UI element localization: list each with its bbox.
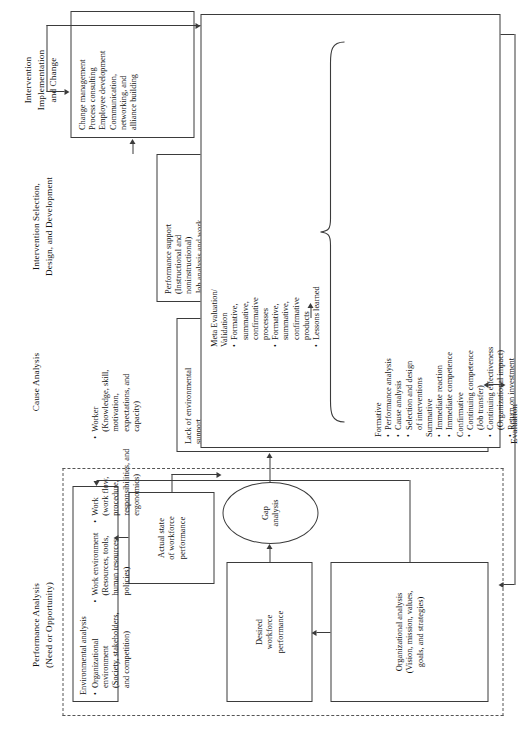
list-line: (Job transfer) [475,25,485,430]
list-line: summative, [240,25,250,340]
arrowhead-up [498,582,503,588]
list-line: (Resources, tools, [100,533,110,596]
box-line: performance [177,517,187,559]
connector-orgroot-to-env [409,480,410,562]
box-line: goals, and strategies) [415,597,425,667]
list-item: Continuing competence (Job transfer) [465,25,485,437]
list-line: Organizational [90,612,100,688]
list-item: Performance analysis [383,25,393,437]
connector-evaluation-feedback-down [46,91,64,92]
list-item: Cause analysis [393,25,403,437]
list-item: Summative [424,25,434,437]
list-item: Formative, summative, confirmative proce… [229,25,270,347]
column-title-line: and Change [47,20,59,140]
connector-organalysis-to-desired [316,632,330,633]
box-line: Actual state [156,518,166,558]
column-title-cause-analysis: Cause Analysis [30,312,43,452]
list-line: confirmative [250,25,260,340]
list-line: Formative, [270,25,280,340]
list-line: (Organizational impact) [495,25,505,430]
list-line: Performance analysis [383,25,393,430]
list-line: Communication, [108,19,118,130]
list-item: Organizational environment (Society, sta… [90,612,141,695]
arrowhead-up [483,382,488,388]
list-item: Confirmative [455,25,465,437]
column-title-line: Cause Analysis [30,312,42,452]
list-line: noninstructional) [183,162,193,294]
list-line: networking, and [118,19,128,130]
ellipse-line: analysis [270,500,280,527]
box-line: performance [275,611,285,653]
list-item: Meta Evaluation/ Validation [209,25,229,347]
list-line: environment [100,612,110,688]
hpt-model-figure: Performance Analysis (Need or Opportunit… [0,0,525,732]
list-line: Summative [424,25,434,437]
list-line: (Society, stakeholders, [110,612,120,688]
connector-evaluation-feedback-horiz [46,25,47,92]
connector-evaluation-feedback-vert [46,25,200,26]
list-line: ergonomics) [131,449,141,516]
list-line: (Instructional and [173,162,183,294]
box-heading: Environmental analysis [78,616,88,695]
column-title-line: (Need or Opportunity) [43,540,55,710]
arrowhead-down [64,89,69,95]
column-title-line: Performance Analysis [30,540,42,710]
list-line: expectations, and [121,370,131,432]
column-title-performance-analysis: Performance Analysis (Need or Opportunit… [30,540,55,710]
list-line: capacity) [131,370,141,432]
connector-cause-to-intervention [310,307,311,318]
intervention-implementation-list: Change management Process consulting Emp… [77,19,138,130]
list-line: Validation [219,25,229,347]
list-item: Employee development [97,19,107,130]
list-line: of interventions [414,25,424,430]
list-item: Communication, networking, and alliance … [108,19,139,130]
arrowhead-left [93,481,99,486]
box-line: (Vision, mission, values, [404,591,414,674]
box-evaluation: Formative Performance analysis Cause ana… [200,14,500,448]
list-line: alliance building [128,19,138,130]
list-line: Cause analysis [393,25,403,430]
arrowhead-right [129,139,135,144]
connector-selection-to-implementation [132,143,133,154]
column-title-intervention-selection: Intervention Selection, Design, and Deve… [30,139,55,314]
list-line: Work environment [90,533,100,596]
list-item: Work environment (Resources, tools, huma… [90,533,141,603]
list-line: Lessons learned [311,25,321,340]
box-desired-workforce-performance: Desired workforce performance [226,562,312,702]
list-line: summative, [280,25,290,340]
arrowhead-down [216,472,221,478]
arrowhead-right [307,303,313,308]
list-line: policies) [121,533,131,596]
list-line: Employee development [97,19,107,130]
list-item: Formative, summative, confirmative produ… [270,25,311,347]
connector-return-long-horiz [514,34,515,585]
list-line: Lack of environmental [183,326,193,444]
list-line: (Knowledge, skill, [100,370,110,432]
list-item: Performance support (Instructional and n… [163,162,194,294]
list-item: Immediate competence [444,25,454,437]
figure-canvas: Performance Analysis (Need or Opportunit… [0,0,525,732]
ellipse-line: Gap [260,500,270,527]
meta-evaluation-list: Meta Evaluation/ Validation Formative, s… [209,25,321,347]
box-line: Organizational analysis [394,593,404,672]
list-line: (work flow, [100,449,110,516]
list-line: Process consulting [87,19,97,130]
list-item: Continuing effectiveness (Organizational… [485,25,505,437]
evaluation-brace [319,41,345,423]
list-line: procedure, [110,449,120,516]
box-environmental-analysis: Environmental analysis Organizational en… [72,486,118,702]
list-line: Worker [90,370,100,432]
box-line: of workforce [166,516,176,559]
list-item: Immediate reaction [434,25,444,437]
connector-gap-to-cause [269,458,270,482]
column-title-line: Intervention [22,20,34,140]
list-line: responsibilities, and [121,449,131,516]
column-title-line: Implementation [35,20,47,140]
connector-evaluation-to-cause [488,384,500,385]
list-line: Continuing competence [465,25,475,430]
connector-orgroot-to-env-vert [96,480,409,481]
list-line: processes [260,25,270,340]
box-organizational-analysis: Organizational analysis (Vision, mission… [330,562,488,702]
list-item: Lessons learned [311,25,321,347]
box-line: workforce [264,615,274,649]
